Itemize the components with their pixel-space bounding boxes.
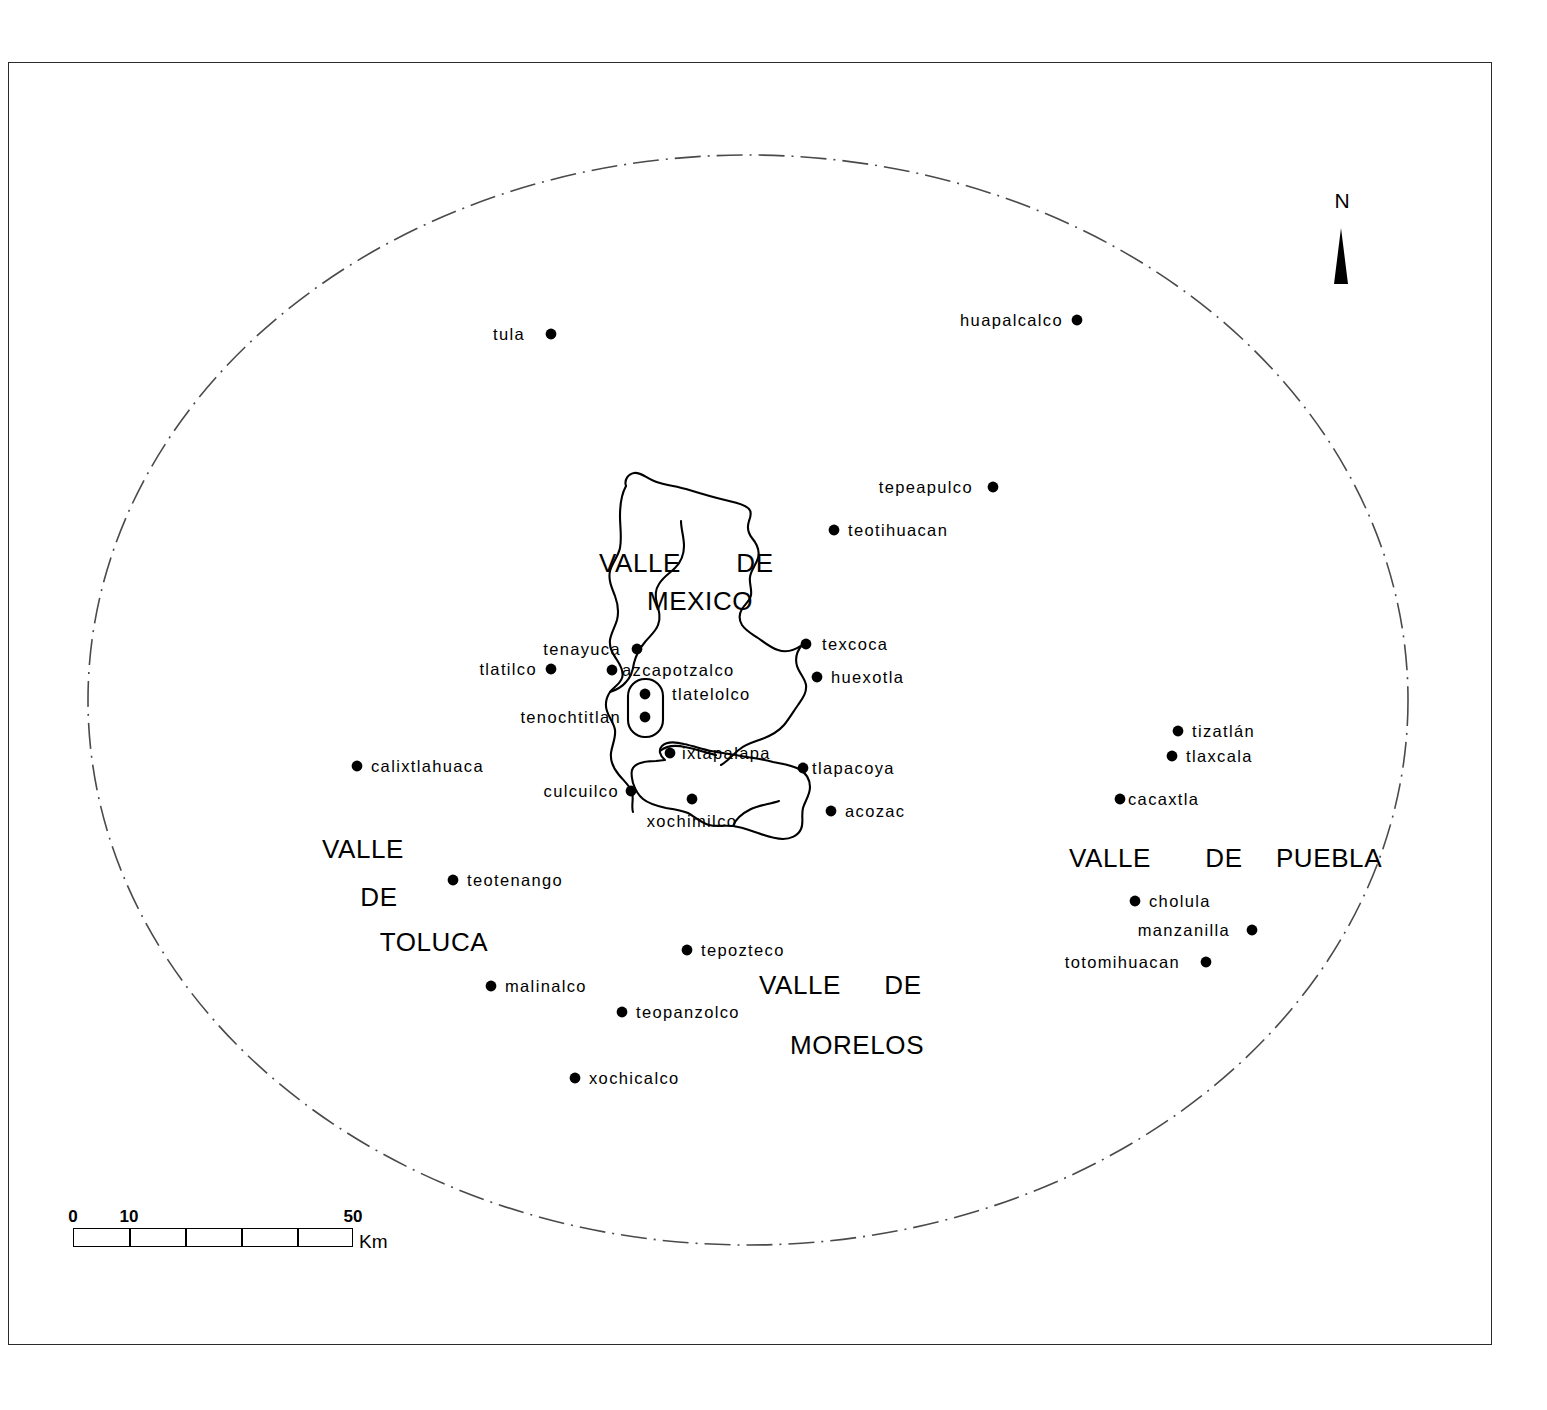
site-label-xochicalco: xochicalco <box>589 1070 680 1087</box>
site-dot-cacaxtla[interactable] <box>1115 794 1126 805</box>
tenochtitlan-island-outline <box>628 679 663 737</box>
site-dot-culcuilco[interactable] <box>626 786 637 797</box>
site-dot-tepeapulco[interactable] <box>988 482 999 493</box>
site-dot-tlapacoya[interactable] <box>798 763 809 774</box>
site-dot-tlaxcala[interactable] <box>1167 751 1178 762</box>
site-label-teotenango: teotenango <box>467 872 563 889</box>
lake-chalco-divider <box>733 801 779 826</box>
site-label-cholula: cholula <box>1149 893 1211 910</box>
site-dot-texcoca[interactable] <box>801 639 812 650</box>
site-dot-tizatlan[interactable] <box>1173 726 1184 737</box>
site-label-tenayuca: tenayuca <box>543 641 621 658</box>
site-dot-tenayuca[interactable] <box>632 644 643 655</box>
scale-bar-unit: Km <box>359 1232 388 1251</box>
region-label-valle-de-puebla: PUEBLA <box>1276 845 1382 871</box>
site-dot-teotenango[interactable] <box>448 875 459 886</box>
north-arrow: N <box>1316 192 1368 284</box>
site-label-tepozteco: tepozteco <box>701 942 785 959</box>
site-dot-huexotla[interactable] <box>812 672 823 683</box>
region-label-valle-de-morelos: VALLE <box>759 972 841 998</box>
site-label-manzanilla: manzanilla <box>1138 922 1230 939</box>
site-dot-calixtlahuaca[interactable] <box>352 761 363 772</box>
site-label-tula: tula <box>493 326 525 343</box>
site-dot-cholula[interactable] <box>1130 896 1141 907</box>
site-dot-acozac[interactable] <box>826 806 837 817</box>
north-arrow-label: N <box>1334 190 1349 211</box>
site-label-tepeapulco: tepeapulco <box>879 479 973 496</box>
map-page: N Km 01050 VALLEDEMEXICOVALLEDETOLUCAVAL… <box>0 0 1547 1410</box>
site-label-tenochtitlan: tenochtitlan <box>520 709 621 726</box>
site-dot-tlatilco[interactable] <box>546 664 557 675</box>
scale-bar-number: 50 <box>344 1208 363 1225</box>
site-label-malinalco: malinalco <box>505 978 587 995</box>
scale-bar-track <box>73 1228 353 1247</box>
region-label-valle-de-toluca: TOLUCA <box>380 929 489 955</box>
site-label-cacaxtla: cacaxtla <box>1128 791 1199 808</box>
region-label-valle-de-toluca: DE <box>360 884 397 910</box>
scale-bar-tick <box>185 1228 187 1247</box>
scale-bar-number: 10 <box>120 1208 139 1225</box>
site-dot-xochimilco[interactable] <box>687 794 698 805</box>
site-dot-teopanzolco[interactable] <box>617 1007 628 1018</box>
site-label-teotihuacan: teotihuacan <box>848 522 948 539</box>
site-dot-tlatelolco[interactable] <box>640 689 651 700</box>
site-label-huexotla: huexotla <box>831 669 904 686</box>
site-label-azcapotzalco: azcapotzalco <box>622 662 735 679</box>
site-label-xochimilco: xochimilco <box>647 813 738 830</box>
region-label-valle-de-puebla: VALLE <box>1069 845 1151 871</box>
site-dot-huapalcalco[interactable] <box>1072 315 1083 326</box>
map-canvas <box>0 0 1547 1410</box>
region-label-valle-de-morelos: DE <box>884 972 921 998</box>
site-label-totomihuacan: totomihuacan <box>1065 954 1180 971</box>
region-label-valle-de-mexico: VALLE <box>599 550 681 576</box>
region-label-valle-de-morelos: MORELOS <box>790 1032 924 1058</box>
site-dot-teotihuacan[interactable] <box>829 525 840 536</box>
site-label-tlatelolco: tlatelolco <box>672 686 751 703</box>
site-label-tlapacoya: tlapacoya <box>812 760 895 777</box>
scale-bar-tick <box>129 1228 131 1247</box>
site-dot-tula[interactable] <box>546 329 557 340</box>
site-dot-tenochtitlan[interactable] <box>640 712 651 723</box>
site-dot-malinalco[interactable] <box>486 981 497 992</box>
site-dot-ixtapalapa[interactable] <box>665 748 676 759</box>
site-label-huapalcalco: huapalcalco <box>960 312 1063 329</box>
site-dot-manzanilla[interactable] <box>1247 925 1258 936</box>
scale-bar-tick <box>241 1228 243 1247</box>
site-label-texcoca: texcoca <box>822 636 888 653</box>
site-label-culcuilco: culcuilco <box>544 783 619 800</box>
region-label-valle-de-mexico: DE <box>736 550 773 576</box>
scale-bar-number: 0 <box>68 1208 77 1225</box>
region-label-valle-de-mexico: MEXICO <box>647 588 753 614</box>
site-label-tlaxcala: tlaxcala <box>1186 748 1253 765</box>
site-dot-totomihuacan[interactable] <box>1201 957 1212 968</box>
scale-bar-tick <box>297 1228 299 1247</box>
site-label-ixtapalapa: ixtapalapa <box>682 745 771 762</box>
site-dot-azcapotzalco[interactable] <box>607 665 618 676</box>
scale-bar: Km 01050 <box>73 1228 353 1250</box>
site-label-calixtlahuaca: calixtlahuaca <box>371 758 484 775</box>
region-label-valle-de-toluca: VALLE <box>322 836 404 862</box>
site-label-tizatlan: tizatlán <box>1192 723 1255 740</box>
site-label-teopanzolco: teopanzolco <box>636 1004 740 1021</box>
region-label-valle-de-puebla: DE <box>1205 845 1242 871</box>
site-label-tlatilco: tlatilco <box>479 661 537 678</box>
site-dot-tepozteco[interactable] <box>682 945 693 956</box>
site-label-acozac: acozac <box>845 803 905 820</box>
site-dot-xochicalco[interactable] <box>570 1073 581 1084</box>
